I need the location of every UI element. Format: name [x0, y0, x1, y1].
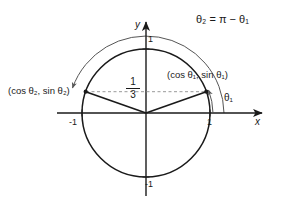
point1-label: (cos θ₁, sin θ₁) — [167, 70, 228, 80]
radius-to-point1 — [146, 92, 206, 113]
unit-circle-figure: x y 1 -1 1 -1 1 3 (cos θ₁, sin θ₁) (cos … — [0, 0, 281, 215]
x-axis-label: x — [255, 117, 260, 127]
y-axis-label: y — [135, 20, 140, 30]
height-fraction: 1 3 — [126, 77, 140, 100]
fraction-denominator: 3 — [126, 90, 140, 100]
point2-label: (cos θ₂, sin θ₂) — [8, 86, 70, 96]
point2-marker — [84, 90, 88, 94]
y-tick-label-negative: -1 — [145, 180, 153, 189]
x-tick-label-positive: 1 — [207, 118, 212, 127]
theta1-label: θ₁ — [224, 93, 233, 103]
figure-canvas — [0, 0, 281, 215]
y-tick-label-positive: 1 — [148, 35, 153, 44]
fraction-numerator: 1 — [126, 77, 140, 87]
x-tick-label-negative: -1 — [69, 118, 77, 127]
point1-marker — [204, 90, 208, 94]
supplement-equation: θ₂ = π − θ₁ — [196, 14, 249, 25]
